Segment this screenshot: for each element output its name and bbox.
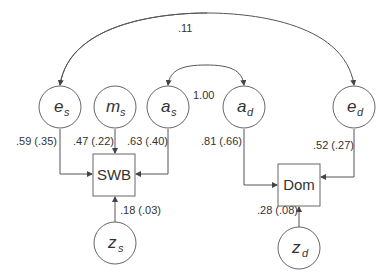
- svg-text:e: e: [347, 97, 356, 116]
- node-m-s: m s: [94, 86, 136, 128]
- node-e-s: e s: [39, 86, 81, 128]
- correlation-arc-as-ad-left: [168, 65, 206, 85]
- svg-text:a: a: [161, 97, 170, 116]
- edge-label-es-swb: .59 (.35): [16, 135, 57, 147]
- edge-ms-swb: .47 (.22): [73, 129, 115, 153]
- correlation-arc-es-ed: [60, 13, 354, 85]
- edge-label-ed-dom: .52 (.27): [313, 139, 354, 151]
- node-a-d: a d: [223, 86, 265, 128]
- edge-zd-dom: .28 (.08): [257, 204, 299, 227]
- edge-label-as-ad: 1.00: [193, 89, 214, 101]
- svg-text:SWB: SWB: [97, 166, 131, 183]
- svg-text:m: m: [106, 97, 120, 116]
- node-dom: Dom: [278, 164, 320, 206]
- edge-label-es-ed: .11: [178, 22, 192, 34]
- svg-text:z: z: [107, 233, 117, 252]
- svg-text:s: s: [64, 106, 70, 118]
- edge-ad-dom: .81 (.66): [201, 129, 277, 185]
- node-swb: SWB: [93, 154, 135, 196]
- svg-text:a: a: [237, 97, 246, 116]
- svg-text:z: z: [291, 238, 301, 257]
- edge-zs-swb: .18 (.03): [115, 197, 161, 222]
- node-a-s: a s: [147, 86, 189, 128]
- edge-label-zs-swb: .18 (.03): [120, 204, 161, 216]
- edge-es-ed: .11: [60, 13, 354, 85]
- node-e-d: e d: [333, 86, 375, 128]
- edge-label-as-swb: .63 (.40): [127, 135, 168, 147]
- node-z-s: z s: [94, 222, 136, 264]
- correlation-arc-as-ad-right: [206, 65, 244, 85]
- svg-text:d: d: [247, 106, 254, 118]
- svg-text:e: e: [54, 97, 63, 116]
- svg-text:s: s: [171, 106, 177, 118]
- edge-label-ms-swb: .47 (.22): [73, 135, 114, 147]
- edge-label-ad-dom: .81 (.66): [201, 135, 242, 147]
- node-z-d: z d: [278, 227, 320, 269]
- svg-text:s: s: [120, 106, 126, 118]
- svg-text:Dom: Dom: [283, 176, 315, 193]
- path-diagram: .11 1.00 .59 (.35) .47 (.22) .63 (.40) .…: [0, 0, 391, 278]
- svg-text:d: d: [302, 247, 309, 259]
- svg-text:d: d: [357, 106, 364, 118]
- svg-text:s: s: [118, 242, 124, 254]
